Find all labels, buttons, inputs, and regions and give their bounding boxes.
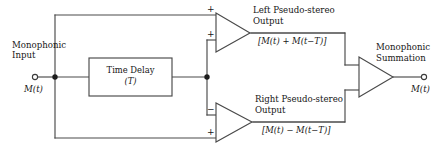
input-label-line1: Monophonic [12,41,66,50]
right-output-title-line1: Right Pseudo-stereo [255,95,343,104]
right-amplifier-symbol [216,103,252,142]
left-amplifier-symbol [216,13,250,52]
input-terminal-icon [32,74,37,79]
right-amp-input-bottom-sign: + [207,128,215,138]
summation-output-signal: M(t) [411,85,430,94]
left-amp-input-bottom-sign: + [207,30,215,40]
summation-title-line2: Summation [376,54,426,63]
delay-block-label-line1: Time Delay [89,66,172,75]
input-label-line2: Input [12,51,35,60]
junction-dot-input [52,74,57,79]
left-amp-input-top-sign: + [207,5,215,15]
right-output-title-line2: Output [255,106,286,115]
right-amp-input-top-sign: − [207,105,215,115]
pseudo-stereo-block-diagram: Monophonic Input M(t) Time Delay (T) + +… [0,0,446,154]
input-signal-label: M(t) [24,85,43,94]
left-output-expression: [M(t) + M(t−T)] [258,37,326,46]
junction-dot-delayed [204,74,209,79]
left-output-title-line1: Left Pseudo-stereo [253,6,335,15]
right-output-expression: [M(t) − M(t−T)] [262,126,330,135]
output-terminal-icon [421,74,426,79]
delay-block-label-line2: (T) [89,77,172,86]
summation-title-line1: Monophonic [376,43,430,52]
left-output-title-line2: Output [253,17,284,26]
diagram-canvas [0,0,446,154]
